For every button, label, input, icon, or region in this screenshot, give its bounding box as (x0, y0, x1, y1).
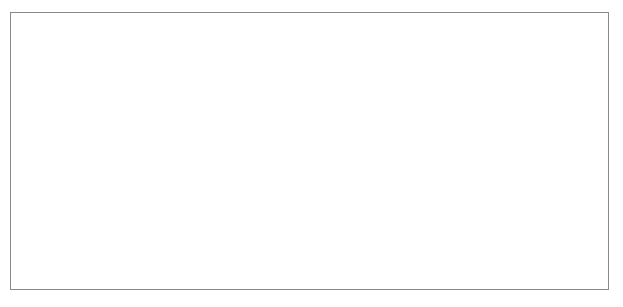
chart-frame-border (10, 12, 609, 290)
chart-figure: 050,000100,000150,000200,000250,000300,0… (0, 0, 623, 307)
